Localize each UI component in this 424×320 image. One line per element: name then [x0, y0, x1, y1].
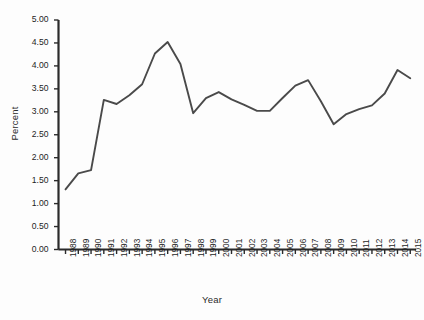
y-tick-label: 1.00 — [19, 198, 49, 208]
x-tick-label: 1988 — [69, 238, 78, 256]
y-tick-label: 4.00 — [19, 60, 49, 70]
data-series-line — [66, 42, 411, 189]
plot-area — [0, 0, 424, 320]
x-tick-label: 1991 — [107, 238, 116, 256]
x-tick-label: 1990 — [94, 238, 103, 256]
x-tick-label: 2012 — [375, 238, 384, 256]
y-tick-label: 0.00 — [19, 244, 49, 254]
axis-lines — [59, 20, 417, 250]
x-tick-label: 2011 — [362, 239, 371, 257]
y-axis-title: Percent — [9, 94, 20, 154]
y-tick-label: 2.50 — [19, 129, 49, 139]
x-tick-label: 1993 — [133, 238, 142, 256]
y-tick-label: 0.50 — [19, 221, 49, 231]
x-tick-label: 2003 — [260, 238, 269, 256]
x-tick-label: 1992 — [120, 238, 129, 256]
x-tick-label: 1998 — [197, 238, 206, 256]
x-tick-label: 1989 — [82, 238, 91, 256]
x-tick-label: 2005 — [286, 238, 295, 256]
x-tick-label: 2014 — [401, 238, 410, 256]
x-tick-label: 1994 — [145, 238, 154, 256]
y-tick-label: 3.00 — [19, 106, 49, 116]
x-tick-label: 2009 — [337, 238, 346, 256]
x-tick-label: 2006 — [299, 238, 308, 256]
x-tick-label: 2001 — [235, 238, 244, 256]
x-tick-label: 1999 — [209, 238, 218, 256]
x-tick-label: 1995 — [158, 238, 167, 256]
x-tick-label: 2008 — [324, 238, 333, 256]
x-tick-label: 2007 — [311, 238, 320, 256]
y-tick-label: 5.00 — [19, 14, 49, 24]
x-tick-label: 2015 — [414, 238, 423, 256]
x-axis-title: Year — [0, 294, 424, 305]
x-tick-label: 2002 — [248, 238, 257, 256]
x-tick-label: 2004 — [273, 238, 282, 256]
x-tick-label: 2010 — [350, 238, 359, 256]
y-tick-label: 4.50 — [19, 37, 49, 47]
line-chart: Percent Year 0.000.501.001.502.002.503.0… — [0, 0, 424, 320]
y-tick-label: 3.50 — [19, 83, 49, 93]
x-tick-label: 1997 — [184, 238, 193, 256]
x-tick-label: 1996 — [171, 238, 180, 256]
x-tick-label: 2013 — [388, 238, 397, 256]
y-tick-label: 2.00 — [19, 152, 49, 162]
x-tick-label: 2000 — [222, 238, 231, 256]
y-tick-label: 1.50 — [19, 175, 49, 185]
